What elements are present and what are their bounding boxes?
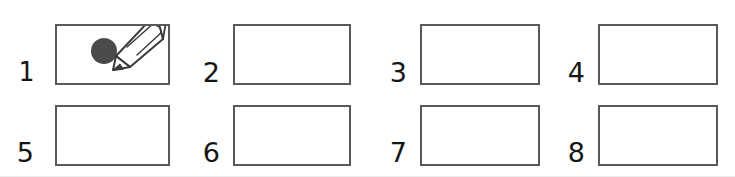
cell-number-5: 5 xyxy=(6,139,34,166)
cell-number-7: 7 xyxy=(379,139,407,166)
worksheet-grid: 1 xyxy=(0,0,735,177)
cell-number-2: 2 xyxy=(192,59,220,86)
cell-number-4: 4 xyxy=(557,59,585,86)
box-1-canvas xyxy=(57,26,168,83)
drawing-box-3[interactable] xyxy=(420,24,540,85)
box-6-canvas xyxy=(235,107,349,164)
bottom-divider xyxy=(0,176,735,177)
drawing-box-1[interactable] xyxy=(55,24,170,85)
drawing-box-5[interactable] xyxy=(55,105,170,166)
box-4-canvas xyxy=(600,26,716,83)
box-2-canvas xyxy=(235,26,349,83)
box-7-canvas xyxy=(422,107,538,164)
box-3-canvas xyxy=(422,26,538,83)
pencil-drawing-dot-icon xyxy=(57,26,168,83)
box-5-canvas xyxy=(57,107,168,164)
drawing-box-6[interactable] xyxy=(233,105,351,166)
drawing-box-2[interactable] xyxy=(233,24,351,85)
drawing-box-7[interactable] xyxy=(420,105,540,166)
cell-number-1: 1 xyxy=(6,59,34,85)
cell-number-6: 6 xyxy=(192,139,220,166)
drawing-box-8[interactable] xyxy=(598,105,718,166)
cell-number-3: 3 xyxy=(379,59,407,86)
drawing-box-4[interactable] xyxy=(598,24,718,85)
box-8-canvas xyxy=(600,107,716,164)
cell-number-8: 8 xyxy=(557,139,585,166)
